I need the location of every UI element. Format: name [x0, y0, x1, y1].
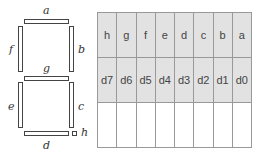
cell-bit: d5	[136, 58, 155, 103]
segment-row: h g f e d c b a	[98, 13, 252, 58]
cell-empty	[194, 103, 213, 148]
cell-bit: d3	[175, 58, 194, 103]
cell-bit: d6	[117, 58, 136, 103]
label-d: d	[43, 140, 50, 151]
cell-empty	[175, 103, 194, 148]
empty-row	[98, 103, 252, 148]
cell-bit: d0	[232, 58, 251, 103]
cell-empty	[117, 103, 136, 148]
cell-empty	[232, 103, 251, 148]
cell-segment: h	[98, 13, 117, 58]
segment-d	[24, 131, 69, 136]
cell-segment: c	[194, 13, 213, 58]
cell-segment: e	[155, 13, 174, 58]
cell-bit: d2	[194, 58, 213, 103]
label-e: e	[8, 101, 15, 112]
cell-empty	[155, 103, 174, 148]
label-a: a	[43, 5, 50, 16]
cell-bit: d4	[155, 58, 174, 103]
label-c: c	[78, 101, 84, 112]
label-b: b	[78, 44, 85, 55]
label-h: h	[81, 127, 88, 138]
segment-f	[18, 26, 23, 72]
cell-bit: d1	[213, 58, 232, 103]
segment-e	[18, 82, 23, 128]
cell-segment: b	[213, 13, 232, 58]
label-g: g	[43, 63, 50, 74]
cell-empty	[98, 103, 117, 148]
cell-segment: a	[232, 13, 251, 58]
cell-segment: d	[175, 13, 194, 58]
cell-empty	[213, 103, 232, 148]
cell-empty	[136, 103, 155, 148]
segment-b	[69, 26, 74, 72]
label-f: f	[9, 44, 13, 55]
segment-a	[24, 19, 69, 24]
segment-g	[24, 76, 69, 81]
cell-bit: d7	[98, 58, 117, 103]
segment-h-decimal-point	[72, 131, 77, 136]
cell-segment: g	[117, 13, 136, 58]
segment-c	[69, 82, 74, 128]
segment-bit-mapping-table: h g f e d c b a d7 d6 d5 d4 d3 d2 d1 d0	[97, 12, 252, 148]
bit-row: d7 d6 d5 d4 d3 d2 d1 d0	[98, 58, 252, 103]
cell-segment: f	[136, 13, 155, 58]
